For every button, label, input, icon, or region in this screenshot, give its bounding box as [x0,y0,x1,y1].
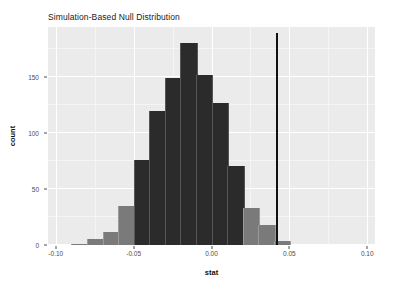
x-tick-mark [133,246,134,249]
y-tick-label: 50 [0,186,39,193]
x-tick-label: -0.10 [48,250,63,257]
plot-panel [48,27,375,245]
chart-title: Simulation-Based Null Distribution [48,12,180,22]
x-tick-label: 0.05 [283,250,296,257]
y-axis-title: count [8,126,17,146]
x-tick-label: 0.10 [361,250,374,257]
y-tick-label: 150 [0,74,39,81]
y-tick-mark [44,133,47,134]
x-tick-label: -0.05 [126,250,141,257]
histogram-chart: Simulation-Based Null Distribution 05010… [0,0,398,294]
y-tick-mark [44,245,47,246]
x-tick-mark [211,246,212,249]
x-tick-mark [289,246,290,249]
x-axis-title: stat [48,268,375,277]
x-tick-mark [367,246,368,249]
x-tick-mark [55,246,56,249]
y-tick-mark [44,77,47,78]
y-tick-mark [44,189,47,190]
y-tick-label: 100 [0,130,39,137]
observed-stat-line [276,33,278,245]
x-tick-label: 0.00 [205,250,218,257]
bars-group [48,27,375,245]
y-tick-label: 0 [0,242,39,249]
